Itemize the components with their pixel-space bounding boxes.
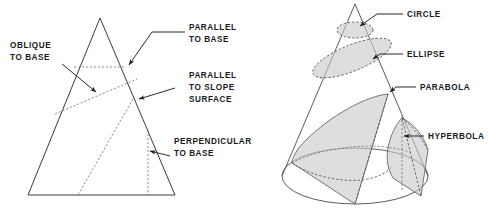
label-parallel-to-base: PARALLEL TO BASE bbox=[189, 23, 236, 44]
leader-oblique-to-base bbox=[62, 64, 96, 92]
cut-oblique-to-base bbox=[55, 79, 137, 114]
label-hyperbola: HYPERBOLA bbox=[428, 132, 484, 141]
section-hyperbola bbox=[387, 118, 428, 196]
label-parallel-to-slope-line2: TO SLOPE bbox=[189, 83, 235, 92]
label-ellipse: ELLIPSE bbox=[407, 50, 445, 59]
label-parabola: PARABOLA bbox=[420, 83, 470, 92]
label-oblique-to-base-line1: OBLIQUE bbox=[10, 41, 51, 50]
label-parallel-to-base-line2: TO BASE bbox=[189, 35, 229, 44]
label-oblique-to-base: OBLIQUE TO BASE bbox=[10, 41, 51, 62]
label-parallel-to-base-line1: PARALLEL bbox=[189, 23, 236, 32]
left-triangle-group: OBLIQUE TO BASE PARALLEL TO BASE PARALLE… bbox=[10, 18, 252, 195]
leader-perpendicular-to-base bbox=[150, 151, 170, 156]
leader-parallel-to-slope-surface bbox=[139, 88, 175, 99]
right-cone-group: CIRCLE ELLIPSE PARABOLA HYPERBOLA bbox=[282, 4, 484, 204]
section-ellipse bbox=[308, 30, 396, 86]
label-parallel-to-slope-line1: PARALLEL bbox=[189, 71, 236, 80]
label-perpendicular-to-base-line1: PERPENDICULAR bbox=[174, 137, 252, 146]
label-parallel-to-slope-line3: SURFACE bbox=[189, 95, 232, 104]
label-parallel-to-slope-surface: PARALLEL TO SLOPE SURFACE bbox=[189, 71, 236, 104]
diagram-page: OBLIQUE TO BASE PARALLEL TO BASE PARALLE… bbox=[0, 0, 488, 212]
leader-parallel-to-base bbox=[129, 32, 185, 65]
leader-parabola bbox=[390, 87, 416, 92]
cut-parallel-to-slope-surface bbox=[78, 99, 133, 195]
section-circle bbox=[337, 22, 373, 38]
label-oblique-to-base-line2: TO BASE bbox=[10, 53, 50, 62]
label-circle: CIRCLE bbox=[407, 10, 441, 19]
label-perpendicular-to-base: PERPENDICULAR TO BASE bbox=[174, 137, 252, 158]
figure-canvas: OBLIQUE TO BASE PARALLEL TO BASE PARALLE… bbox=[0, 0, 488, 212]
label-perpendicular-to-base-line2: TO BASE bbox=[174, 149, 214, 158]
